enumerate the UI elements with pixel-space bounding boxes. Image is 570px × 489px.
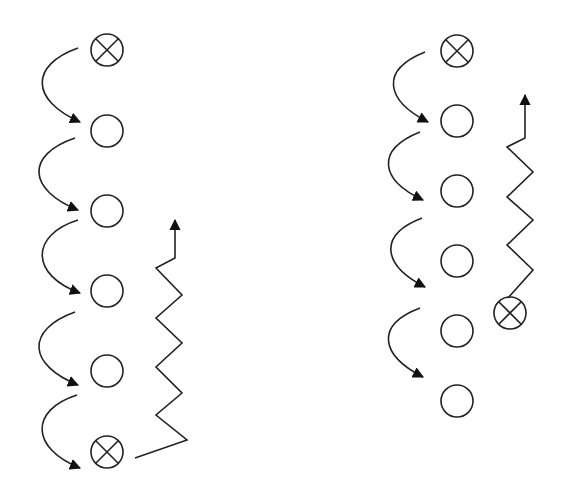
right-player-5 <box>441 315 473 347</box>
pass-arrow-icon <box>393 52 428 122</box>
left-player-3 <box>91 195 123 227</box>
right-player-1 <box>441 35 473 67</box>
drill-diagram <box>0 0 570 489</box>
zigzag-run-arrow-icon <box>507 95 533 298</box>
zigzag-run-arrow-icon <box>135 220 187 458</box>
pass-arrow-icon <box>39 138 78 210</box>
right-player-3 <box>441 175 473 207</box>
left-player-2 <box>91 115 123 147</box>
pass-arrow-icon <box>388 308 423 377</box>
left-player-1 <box>91 34 123 66</box>
pass-arrow-icon <box>39 312 78 385</box>
pass-arrow-icon <box>42 395 80 468</box>
right-player-2 <box>441 105 473 137</box>
pass-arrow-icon <box>391 218 425 287</box>
right-player-6 <box>441 385 473 417</box>
left-player-5 <box>91 355 123 387</box>
pass-arrow-icon <box>388 132 423 200</box>
pass-arrow-icon <box>42 48 80 122</box>
right-runner <box>494 297 526 329</box>
right-player-4 <box>441 245 473 277</box>
left-player-6 <box>91 436 123 468</box>
left-player-4 <box>91 275 123 307</box>
pass-arrow-icon <box>42 220 80 293</box>
